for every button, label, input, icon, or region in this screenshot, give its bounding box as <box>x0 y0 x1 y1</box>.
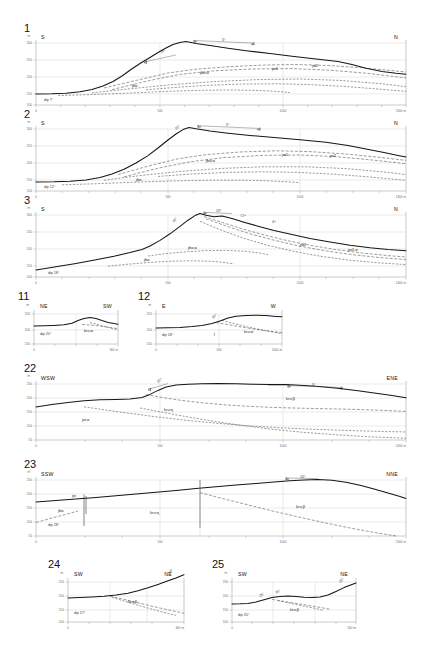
x-tick-label: 500 m <box>347 626 356 630</box>
angle-label: 20° <box>172 216 179 223</box>
grid-lines <box>68 582 184 622</box>
y-tick-label: 250 <box>25 312 30 316</box>
y-tick-label: 150 <box>27 410 32 414</box>
direction-label-right: W <box>271 303 276 309</box>
x-tick-label: 0 <box>231 626 233 630</box>
x-tick-label: 0 <box>35 540 37 544</box>
axes <box>32 310 119 347</box>
y-axis-unit: m <box>27 374 30 378</box>
stratigraphic-horizon <box>36 511 78 522</box>
x-tick-label: 500 <box>157 444 162 448</box>
dip-label: dip 17° <box>74 611 86 615</box>
dip-label: dip 18° <box>48 271 60 275</box>
y-tick-label: 250 <box>147 312 152 316</box>
direction-label-left: WSW <box>41 375 55 381</box>
x-tick-label: 300 m <box>109 348 118 352</box>
y-tick-label: 200 <box>27 75 32 79</box>
y-axis-unit: m <box>27 206 30 210</box>
unit-label: jw2 <box>329 153 337 158</box>
cross-section-panel-12: 12 <box>130 290 290 360</box>
unit-label: kru;β <box>128 599 138 604</box>
unit-label: jbo;α <box>187 245 198 250</box>
cross-section-panel-25: 25 <box>206 558 366 634</box>
y-tick-label: 200 <box>27 396 32 400</box>
stratigraphic-horizon <box>124 155 406 177</box>
x-tick-label: 0 <box>33 348 35 352</box>
unit-label: kru;β <box>296 504 306 509</box>
angle-label: 10° <box>160 48 167 54</box>
stratigraphic-horizon <box>84 407 406 432</box>
x-tick-label: 500 <box>157 540 162 544</box>
y-tick-label: 100 <box>27 103 32 107</box>
stratigraphic-horizon <box>118 151 406 175</box>
y-tick-label: 100 <box>27 275 32 279</box>
stratigraphic-horizon <box>200 493 396 536</box>
stratigraphic-horizon <box>104 65 406 89</box>
y-tick-label: 300 <box>27 213 32 217</box>
unit-label: jbo <box>57 508 64 513</box>
unit-label: jw2 <box>311 63 319 68</box>
angle-label: 3° <box>312 383 316 387</box>
panel-plot: S N m 300 250 200 150 100 0 500 1000 140… <box>0 204 426 286</box>
x-tickmarks <box>36 277 406 280</box>
unit-label: j <box>213 331 215 336</box>
dip-label: dip 28° <box>48 523 60 527</box>
direction-label-right: ENE <box>386 375 398 381</box>
y-tick-label: 200 <box>59 594 64 598</box>
y-axis-unit: m <box>148 303 151 307</box>
y-tick-label: 150 <box>27 178 32 182</box>
dip-label: dip 12° <box>44 185 56 189</box>
stratigraphic-horizon <box>112 69 406 90</box>
cross-section-panel-11: 11 <box>10 290 125 360</box>
y-tick-label: 200 <box>147 328 152 332</box>
y-tick-label: 100 <box>59 620 64 624</box>
dip-label: dip 7° <box>44 98 54 102</box>
y-tick-label: 150 <box>147 342 152 346</box>
x-tick-label: 1000 <box>297 281 304 285</box>
angle-label: 20° <box>156 377 163 384</box>
cross-section-panel-2: 2 <box>0 108 426 200</box>
unit-label: jw1;α <box>347 247 358 252</box>
y-axis-unit: m <box>27 34 30 38</box>
x-tick-label: 0 <box>67 626 69 630</box>
y-tick-label: 150 <box>59 608 64 612</box>
unit-label: kru;η <box>150 510 160 515</box>
grid-lines <box>156 314 282 344</box>
grid-lines <box>232 582 356 622</box>
direction-label-right: NNE <box>386 471 398 477</box>
axes <box>66 578 185 625</box>
y-axis-unit: m <box>27 470 30 474</box>
dip-label: dip 18° <box>162 333 174 337</box>
axes <box>34 126 407 194</box>
panel-plot: E W m 250 200 150 0 500 1000 m 10° j kru… <box>130 300 290 360</box>
y-tick-label: 300 <box>27 127 32 131</box>
angle-label: 35° <box>168 568 175 575</box>
angle-label: 19° <box>216 209 222 213</box>
y-tick-label: 250 <box>27 144 32 148</box>
direction-label-left: SW <box>74 571 83 577</box>
y-tick-label: 50 <box>29 438 33 442</box>
x-tick-label: 1000 m <box>272 348 283 352</box>
panel-plot: S N m 300 250 200 150 100 0 500 1000 140… <box>0 118 426 200</box>
x-tickmarks <box>36 440 406 443</box>
angle-label: 10° <box>300 475 306 479</box>
stratigraphic-horizon <box>112 597 176 615</box>
stratigraphic-horizon <box>206 219 406 260</box>
direction-label-right: SW <box>103 303 112 309</box>
grid-lines <box>34 314 118 344</box>
unit-label: jbo <box>131 83 138 88</box>
panel-plot: S N m 300 250 200 150 100 0 500 1000 150… <box>0 32 426 114</box>
angle-label: 25° <box>338 577 345 584</box>
cross-section-panel-3: 3 <box>0 194 426 286</box>
unit-label: jw2 <box>299 242 307 247</box>
unit-label: jbo;α <box>199 70 210 75</box>
stratigraphic-horizon <box>146 395 406 412</box>
y-tick-label: 200 <box>27 247 32 251</box>
y-tick-label: 100 <box>27 189 32 193</box>
direction-label-left: S <box>41 206 45 212</box>
panel-plot: NE SW m 250 200 150 0 300 m kru;α dip 20… <box>10 300 125 360</box>
y-tickmarks <box>34 384 37 440</box>
stratigraphic-horizon <box>272 599 330 609</box>
direction-label-left: S <box>41 34 45 40</box>
figure-sheet: 1 <box>0 0 426 658</box>
